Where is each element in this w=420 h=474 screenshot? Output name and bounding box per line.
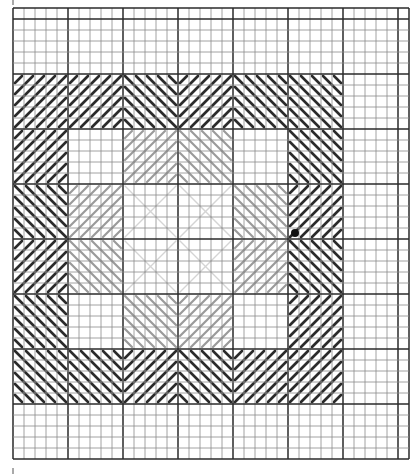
stitch-block-r1-c0 [15, 131, 22, 138]
stitch-block-r5-c3 [180, 395, 187, 402]
stitch-block-r0-c2 [169, 76, 176, 83]
stitch-block-r3-c5 [290, 241, 341, 292]
stitch-block-r5-c1 [70, 395, 77, 402]
stitch-block-r3-c1 [70, 241, 121, 292]
stitch-block-r5-c5 [290, 351, 341, 402]
stitch-block-r0-c0 [59, 120, 66, 127]
stitch-block-r1-c5 [290, 131, 341, 182]
stitch-block-r0-c5 [290, 76, 341, 127]
stitch-block-r0-c3 [180, 76, 231, 127]
stitch-block-r0-c0 [15, 76, 22, 83]
stitch-block-r0-c1 [114, 120, 121, 127]
stitch-block-r4-c2 [125, 296, 176, 347]
stitch-block-r0-c3 [224, 120, 231, 127]
stitch-block-r3-c1 [70, 285, 77, 292]
stitch-block-r3-c5 [334, 241, 341, 248]
stitch-block-r4-c2 [125, 340, 132, 347]
stitch-block-r0-c3 [180, 76, 187, 83]
stitch-block-r0-c2 [125, 76, 176, 127]
stitch-block-r4-c5 [290, 296, 297, 303]
stitch-block-r5-c0 [15, 351, 66, 402]
stitch-block-r0-c4 [235, 76, 286, 127]
stitch-block-r0-c5 [334, 76, 341, 83]
stitch-block-r5-c4 [235, 351, 286, 402]
stitch-block-r4-c5 [290, 296, 341, 347]
stitch-block-r2-c1 [70, 186, 77, 193]
stitch-block-r4-c3 [224, 340, 231, 347]
stitch-block-r0-c5 [290, 120, 297, 127]
stitch-block-r4-c3 [180, 296, 187, 303]
stitch-block-r5-c1 [70, 351, 121, 402]
stitch-block-r4-c0 [59, 296, 66, 303]
stitch-block-r0-c2 [125, 120, 132, 127]
stitch-block-r3-c1 [114, 241, 121, 248]
stitch-block-r0-c4 [279, 76, 286, 83]
stitch-block-r1-c2 [125, 131, 176, 182]
stitch-block-r1-c3 [180, 175, 187, 182]
stitch-chart [0, 0, 420, 474]
stitch-block-r3-c4 [279, 285, 286, 292]
stitch-block-r5-c0 [15, 395, 22, 402]
start-point-dot [291, 229, 299, 237]
stitch-block-r1-c5 [334, 131, 341, 138]
stitch-block-r5-c4 [279, 395, 286, 402]
stitch-block-r0-c1 [70, 76, 121, 127]
stitch-block-r2-c1 [114, 230, 121, 237]
stitch-block-r3-c4 [235, 241, 242, 248]
stitch-block-r3-c4 [235, 241, 286, 292]
stitch-block-r2-c1 [70, 186, 121, 237]
stitch-block-r3-c5 [290, 285, 297, 292]
stitch-block-r2-c0 [59, 186, 66, 193]
stitch-block-r5-c2 [125, 351, 176, 402]
stitch-block-r2-c4 [235, 230, 242, 237]
stitch-block-r5-c2 [125, 351, 132, 358]
stitch-block-r2-c4 [279, 186, 286, 193]
stitch-block-r1-c3 [224, 131, 231, 138]
stitch-block-r3-c0 [15, 241, 22, 248]
stitch-block-r2-c5 [290, 186, 297, 193]
stitch-block-r3-c0 [59, 285, 66, 292]
stitch-block-r5-c4 [235, 351, 242, 358]
stitch-block-r0-c0 [15, 76, 66, 127]
stitch-block-r4-c3 [180, 296, 231, 347]
stitch-block-r1-c2 [169, 175, 176, 182]
stitch-block-r0-c1 [70, 76, 77, 83]
stitch-block-r4-c0 [15, 296, 66, 347]
stitch-block-r3-c0 [15, 241, 66, 292]
stitch-block-r2-c0 [15, 186, 66, 237]
stitch-block-r0-c4 [235, 120, 242, 127]
stitch-block-r5-c5 [334, 395, 341, 402]
stitch-block-r1-c5 [290, 175, 297, 182]
stitch-block-r4-c5 [334, 340, 341, 347]
stitch-block-r4-c0 [15, 340, 22, 347]
stitch-block-r2-c4 [235, 186, 286, 237]
stitch-block-r2-c0 [15, 230, 22, 237]
stitch-block-r5-c2 [169, 395, 176, 402]
stitch-block-r1-c3 [180, 131, 231, 182]
stitch-block-r1-c2 [125, 131, 132, 138]
stitch-block-r2-c5 [334, 230, 341, 237]
stitch-block-r5-c5 [290, 351, 297, 358]
stitch-block-r2-c5 [290, 186, 341, 237]
stitch-block-r1-c0 [59, 175, 66, 182]
stitch-block-r4-c2 [169, 296, 176, 303]
stitch-block-r5-c1 [114, 351, 121, 358]
stitch-block-r5-c3 [224, 351, 231, 358]
stitch-block-r5-c3 [180, 351, 231, 402]
stitch-block-r1-c0 [15, 131, 66, 182]
stitch-block-r5-c0 [59, 351, 66, 358]
